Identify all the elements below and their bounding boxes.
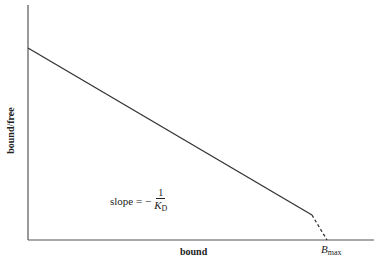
bmax-sub: max [328, 248, 342, 257]
x-axis-label: bound [180, 246, 207, 257]
y-axis-label-text: bound/free [5, 107, 16, 154]
slope-numerator: 1 [156, 187, 165, 199]
y-axis-label: bound/free [2, 95, 18, 165]
data-line-solid [28, 48, 312, 215]
slope-annotation: slope = − 1 KD [110, 187, 167, 215]
kd-sub: D [161, 204, 167, 213]
slope-prefix: slope = − [110, 195, 151, 207]
slope-denominator: KD [154, 199, 167, 215]
scatchard-plot [0, 0, 384, 264]
bmax-main: B [321, 243, 328, 255]
bmax-label: Bmax [321, 243, 342, 257]
data-line-dashed-extrapolation [312, 215, 327, 240]
slope-fraction: 1 KD [154, 187, 167, 215]
